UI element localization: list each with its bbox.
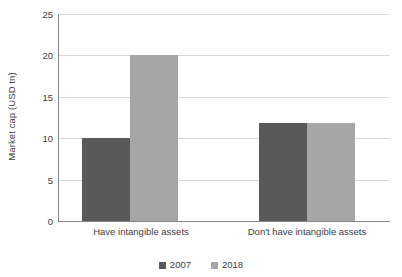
bar-group xyxy=(82,14,178,221)
legend-swatch-icon xyxy=(211,262,218,269)
x-axis-category-label: Have intangible assets xyxy=(58,226,224,237)
y-axis-tick-label: 5 xyxy=(5,174,53,185)
y-axis-tick-label: 25 xyxy=(5,9,53,20)
bar-chart: Market cap (USD tn) 2520151050 Have inta… xyxy=(0,0,402,277)
bar-2007-1[interactable] xyxy=(259,123,307,221)
x-axis-category-label: Don't have intangible assets xyxy=(224,226,390,237)
y-axis-line xyxy=(58,14,59,222)
bar-2018-0[interactable] xyxy=(130,55,178,221)
legend-item-2007[interactable]: 2007 xyxy=(159,260,191,270)
bar-2007-0[interactable] xyxy=(82,138,130,221)
bar-group xyxy=(259,14,355,221)
y-axis-tick-label: 10 xyxy=(5,133,53,144)
legend-item-2018[interactable]: 2018 xyxy=(211,260,243,270)
legend-label: 2018 xyxy=(222,260,243,270)
plot-area xyxy=(58,14,390,221)
x-axis-line xyxy=(58,221,390,222)
y-axis-tick-label: 20 xyxy=(5,50,53,61)
legend-swatch-icon xyxy=(159,262,166,269)
y-axis-tick-label: 15 xyxy=(5,91,53,102)
y-axis-tick-labels: 2520151050 xyxy=(0,14,53,222)
chart-legend: 20072018 xyxy=(0,257,402,273)
legend-label: 2007 xyxy=(170,260,191,270)
bar-2018-1[interactable] xyxy=(307,123,355,221)
x-axis-category-labels: Have intangible assetsDon't have intangi… xyxy=(58,226,390,242)
y-axis-tick-label: 0 xyxy=(5,216,53,227)
